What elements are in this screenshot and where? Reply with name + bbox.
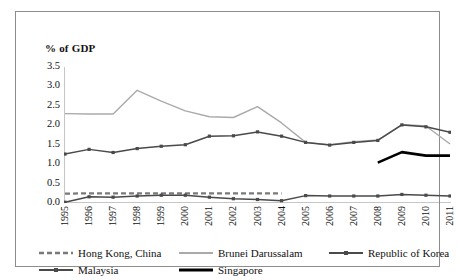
x-tick-label: 2004 [277,206,287,226]
legend-swatch-icon [178,247,214,259]
x-axis-tick-labels: 1995199619971998199920002001200220032004… [64,206,451,246]
x-tick-label: 1996 [84,206,94,226]
legend-label: Hong Kong, China [78,248,161,259]
legend-item[interactable]: Republic of Korea [328,247,449,259]
y-axis-label: % of GDP [45,42,95,54]
x-tick-label: 2002 [228,206,238,226]
legend-label: Republic of Korea [368,248,449,259]
x-tick-label: 1999 [156,206,166,226]
y-tick-label: 3.0 [26,80,60,91]
legend-swatch-icon [178,264,214,276]
plot-area [64,67,451,203]
series-brunei-darussalam [65,90,450,144]
x-tick-label: 2011 [445,206,455,226]
x-tick-label: 2001 [204,206,214,226]
x-tick-label: 1998 [132,206,142,226]
x-tick-label: 1995 [60,206,70,226]
x-tick-label: 2000 [180,206,190,226]
x-tick-label: 2010 [421,206,431,226]
chart-legend: Hong Kong, ChinaBrunei DarussalamRepubli… [38,247,442,280]
series-republic-of-korea [64,123,451,155]
legend-swatch-icon [38,264,74,276]
legend-label: Malaysia [78,265,118,276]
series-singapore [378,152,450,162]
legend-swatch-icon [328,247,364,259]
x-tick-label: 1997 [108,206,118,226]
y-tick-label: 1.5 [26,139,60,150]
y-axis-tick-labels: 0.00.51.01.52.02.53.03.5 [22,67,60,203]
legend-item[interactable]: Hong Kong, China [38,247,161,259]
legend-item[interactable]: Singapore [178,264,263,276]
y-tick-label: 0.5 [26,178,60,189]
y-tick-label: 3.5 [26,61,60,72]
x-tick-label: 2005 [301,206,311,226]
x-tick-label: 2009 [397,206,407,226]
legend-label: Singapore [218,265,263,276]
x-tick-label: 2007 [349,206,359,226]
legend-label: Brunei Darussalam [218,248,303,259]
x-tick-label: 2003 [253,206,263,226]
y-tick-label: 1.0 [26,158,60,169]
legend-item[interactable]: Malaysia [38,264,118,276]
legend-swatch-icon [38,247,74,259]
x-tick-label: 2008 [373,206,383,226]
axis-lines [64,67,451,203]
y-tick-label: 0.0 [26,197,60,208]
legend-item[interactable]: Brunei Darussalam [178,247,303,259]
y-tick-label: 2.5 [26,100,60,111]
y-tick-label: 2.0 [26,119,60,130]
chart-figure: % of GDP 0.00.51.01.52.02.53.03.5 199519… [15,11,440,267]
x-tick-label: 2006 [325,206,335,226]
line-chart-svg [64,67,451,203]
